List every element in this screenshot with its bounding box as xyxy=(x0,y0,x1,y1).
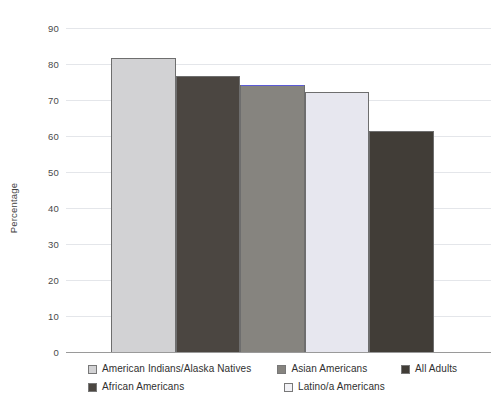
bar-american-indians-alaska-natives[interactable] xyxy=(111,58,176,352)
y-axis-label: Percentage xyxy=(8,183,19,234)
chart-legend: American Indians/Alaska Natives Asian Am… xyxy=(88,364,488,400)
legend-swatch-icon xyxy=(277,365,286,374)
plot-area: 9080706050403020100 xyxy=(66,28,491,352)
legend-row-1: American Indians/Alaska Natives Asian Am… xyxy=(88,364,488,382)
legend-swatch-icon xyxy=(284,383,293,392)
legend-swatch-icon xyxy=(88,383,97,392)
legend-label: Latino/a Americans xyxy=(298,382,385,392)
bar-chart-figure: Percentage 9080706050403020100 American … xyxy=(0,0,503,416)
y-axis-tick-label: 10 xyxy=(48,311,59,322)
bar-all-adults[interactable] xyxy=(369,131,434,352)
bars-group xyxy=(111,28,434,352)
y-axis-tick-label: 0 xyxy=(54,347,59,358)
legend-row-2: African Americans Latino/a Americans xyxy=(88,382,488,400)
x-axis-line: 0 xyxy=(66,352,491,353)
legend-label: Asian Americans xyxy=(291,364,367,374)
bar-latino-a-americans[interactable] xyxy=(305,92,370,352)
y-axis-tick-label: 80 xyxy=(48,59,59,70)
legend-label: American Indians/Alaska Natives xyxy=(102,364,251,374)
legend-swatch-icon xyxy=(401,365,410,374)
legend-label: All Adults xyxy=(415,364,457,374)
y-axis-tick-label: 60 xyxy=(48,131,59,142)
y-axis-tick-label: 70 xyxy=(48,95,59,106)
legend-item-american-indians-alaska-natives[interactable]: American Indians/Alaska Natives xyxy=(88,364,277,374)
legend-swatch-icon xyxy=(88,365,97,374)
bar-african-americans[interactable] xyxy=(176,76,241,352)
y-axis-tick-label: 20 xyxy=(48,275,59,286)
legend-item-african-americans[interactable]: African Americans xyxy=(88,382,284,392)
bar-cap-highlight xyxy=(241,85,304,86)
bar-asian-americans[interactable] xyxy=(240,85,305,352)
y-axis-tick-label: 90 xyxy=(48,23,59,34)
legend-item-latino-a-americans[interactable]: Latino/a Americans xyxy=(284,382,412,392)
caption-partial xyxy=(60,404,490,416)
y-axis-tick-label: 30 xyxy=(48,239,59,250)
legend-label: African Americans xyxy=(102,382,184,392)
y-axis-tick-label: 40 xyxy=(48,203,59,214)
legend-item-asian-americans[interactable]: Asian Americans xyxy=(277,364,401,374)
y-axis-tick-label: 50 xyxy=(48,167,59,178)
legend-item-all-adults[interactable]: All Adults xyxy=(401,364,488,374)
